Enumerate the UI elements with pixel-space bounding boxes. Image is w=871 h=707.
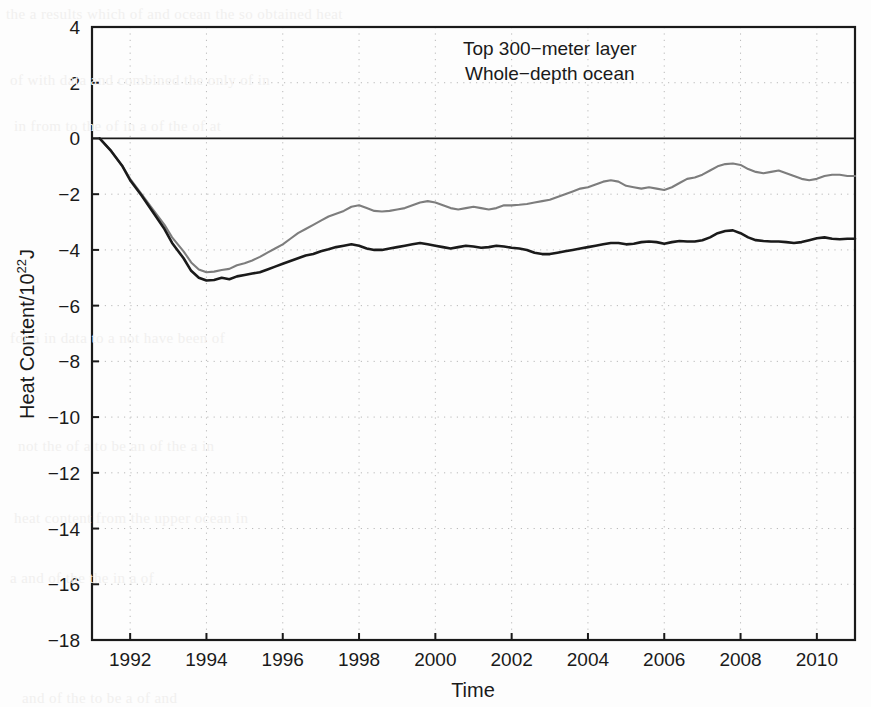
x-tick-label: 2002 [491,649,533,670]
y-tick-label: −10 [48,407,80,428]
y-axis-title: Heat Content/1022J [14,249,38,419]
legend-label-2: Whole−depth ocean [465,63,635,84]
axes-frame [92,27,855,640]
legend-label-1: Top 300−meter layer [463,38,637,59]
gridlines [92,27,855,640]
y-tick-label: −18 [48,630,80,651]
y-tick-label: −16 [48,574,80,595]
y-tick-label: −14 [48,519,81,540]
y-tick-label: 0 [69,128,80,149]
x-tick-label: 2000 [414,649,456,670]
y-tick-label: −2 [58,184,80,205]
y-tick-label: −8 [58,351,80,372]
x-tick-label: 1998 [338,649,380,670]
y-tick-label: −12 [48,463,80,484]
series-line-1 [100,138,855,272]
x-tick-label: 2010 [796,649,838,670]
x-tick-label: 1994 [185,649,228,670]
y-tick-labels: 420−2−4−6−8−10−12−14−16−18 [48,17,81,651]
series-line-2 [100,138,855,280]
y-tick-label: 4 [69,17,80,38]
y-axis-title-exponent: 22 [14,259,29,273]
y-axis-title-main: Heat Content/10 [16,273,38,419]
axis-ticks [92,27,817,640]
figure-canvas: the a results which of and ocean the so … [0,0,871,707]
x-tick-labels: 1992199419961998200020022004200620082010 [109,649,838,670]
x-tick-label: 2004 [567,649,610,670]
x-tick-label: 2006 [643,649,685,670]
x-tick-label: 2008 [719,649,761,670]
y-tick-label: −6 [58,296,80,317]
x-tick-label: 1996 [262,649,304,670]
y-axis-title-unit: J [16,249,38,259]
x-tick-label: 1992 [109,649,151,670]
y-tick-label: −4 [58,240,80,261]
legend: Top 300−meter layerWhole−depth ocean [463,38,637,84]
line-chart: 1992199419961998200020022004200620082010… [0,0,871,707]
data-series-group [100,138,855,280]
y-axis-title-text: Heat Content/1022J [14,249,38,419]
x-axis-title: Time [451,679,495,701]
y-tick-label: 2 [69,73,80,94]
